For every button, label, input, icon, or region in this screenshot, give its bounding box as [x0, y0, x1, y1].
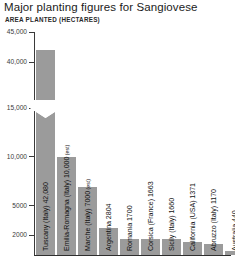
y-axis-tick: 2000: [0, 231, 34, 239]
y-axis-tick: 5000: [0, 202, 34, 210]
y-axis-tick-label: 5000: [12, 202, 27, 210]
bar-label: Argentina 2804: [104, 232, 112, 251]
y-axis-tick-mark: [29, 62, 34, 63]
y-axis-tick-mark: [29, 32, 34, 33]
bar-label: Sicily (Italy) 1660: [168, 232, 176, 251]
bar-label: Abruzzo (Italy) 1170: [210, 232, 218, 251]
y-axis-tick-label: 2000: [12, 231, 27, 239]
bar-label: Tuscany (Italy) 42,080: [41, 232, 49, 251]
estimate-annotation: (est): [63, 144, 69, 156]
bar-label: Australia 440: [231, 232, 235, 251]
bar-label: Corsica (France) 1663: [147, 232, 155, 251]
y-axis-title: AREA PLANTED (HECTARES): [5, 16, 100, 23]
bar-label: Romania 1700: [125, 232, 133, 251]
estimate-annotation: (est): [84, 179, 90, 191]
x-axis-line: [34, 255, 231, 256]
y-axis-tick-mark: [29, 235, 34, 236]
y-axis-tick: 10,000: [0, 153, 34, 161]
bar-label: California (USA) 1371: [189, 232, 197, 251]
y-axis-tick: 15,000: [0, 104, 34, 112]
y-axis-tick-label: 45,000: [7, 28, 27, 36]
y-axis-tick-mark: [29, 156, 34, 157]
y-axis-tick-mark: [29, 108, 34, 109]
bars-layer: Tuscany (Italy) 42,080Emilia-Romagna (It…: [35, 29, 232, 255]
bar-label: Emilia-Romagna (Italy) 10,000 (est): [62, 232, 70, 251]
y-axis-tick: 45,000: [0, 28, 34, 36]
chart-figure: Major planting figures for Sangiovese AR…: [0, 0, 235, 269]
chart-title: Major planting figures for Sangiovese: [4, 1, 198, 13]
bar-label: Marche (Italy) 7000 (est): [83, 232, 91, 251]
y-axis-tick-mark: [29, 205, 34, 206]
y-axis-tick-label: 40,000: [7, 58, 27, 66]
bar-rect: [225, 251, 235, 255]
y-axis-tick-label: 10,000: [7, 153, 27, 161]
y-axis-tick-label: 15,000: [7, 104, 27, 112]
y-axis-tick: 40,000: [0, 58, 34, 66]
plot-area: 45,00040,00015,00010,00050002000 Tuscany…: [34, 28, 232, 256]
